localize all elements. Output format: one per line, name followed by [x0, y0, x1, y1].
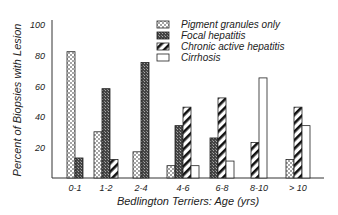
bar	[67, 52, 75, 178]
x-tick-label: 4-6	[176, 183, 189, 193]
bar	[259, 78, 267, 178]
bar	[167, 166, 175, 178]
legend-swatch	[157, 21, 169, 28]
y-tick-label: 80	[35, 51, 45, 61]
legend-label: Focal hepatitis	[181, 30, 245, 41]
bar	[75, 158, 83, 178]
y-tick-label: 20	[34, 143, 45, 153]
bar	[251, 143, 259, 178]
x-tick-label: 1-2	[99, 183, 112, 193]
bar-group-6-8	[210, 98, 234, 178]
x-tick-labels: 0-11-22-44-66-88-10> 10	[68, 183, 306, 193]
legend: Pigment granules onlyFocal hepatitisChro…	[157, 19, 284, 63]
bar	[302, 126, 310, 178]
legend-item: Chronic active hepatitis	[157, 41, 284, 52]
legend-swatch	[157, 32, 169, 39]
bar	[286, 160, 294, 178]
legend-label: Cirrhosis	[181, 52, 220, 63]
bar	[218, 98, 226, 178]
bar	[110, 160, 118, 178]
x-tick-label: 6-8	[215, 183, 228, 193]
bar-chart: 20406080100 0-11-22-44-66-88-10> 10 Perc…	[0, 0, 338, 215]
bar-group--10	[286, 107, 310, 178]
bar-group-8-10	[251, 78, 267, 178]
y-tick-labels: 20406080100	[30, 20, 45, 153]
bar	[210, 138, 218, 178]
bar-group-0-1	[67, 52, 83, 178]
y-tick-label: 40	[35, 112, 45, 122]
bar	[226, 161, 234, 178]
bar-group-1-2	[94, 89, 118, 178]
x-tick-label: 2-4	[133, 183, 147, 193]
bar-groups	[67, 52, 310, 178]
x-axis-label: Bedlington Terriers: Age (yrs)	[117, 195, 260, 207]
bar	[133, 152, 141, 178]
y-tick-label: 100	[30, 20, 45, 30]
y-axis-label: Percent of Biopsies with Lesion	[11, 24, 23, 177]
chart-figure: 20406080100 0-11-22-44-66-88-10> 10 Perc…	[0, 0, 338, 215]
legend-item: Pigment granules only	[157, 19, 281, 30]
y-tick-label: 60	[35, 82, 45, 92]
legend-item: Cirrhosis	[157, 52, 220, 63]
legend-swatch	[157, 43, 169, 50]
x-tick-label: 0-1	[68, 183, 81, 193]
bar	[191, 166, 199, 178]
x-tick-label: 8-10	[250, 183, 268, 193]
bar	[294, 107, 302, 178]
legend-swatch	[157, 54, 169, 61]
legend-label: Chronic active hepatitis	[181, 41, 284, 52]
bar	[94, 132, 102, 178]
x-tick-label: > 10	[289, 183, 307, 193]
legend-item: Focal hepatitis	[157, 30, 245, 41]
bar-group-4-6	[167, 107, 199, 178]
bar	[102, 89, 110, 178]
bar	[141, 63, 149, 179]
legend-label: Pigment granules only	[181, 19, 281, 30]
bar	[183, 107, 191, 178]
bar-group-2-4	[133, 63, 149, 179]
bar	[175, 126, 183, 178]
